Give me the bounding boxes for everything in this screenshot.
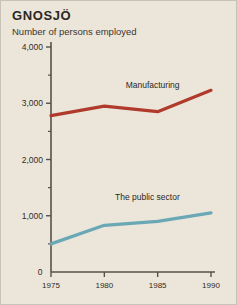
y-axis-tick-label: 4,000 [8,42,43,52]
y-axis-tick-label: 3,000 [8,98,43,108]
y-axis-tick-label: 1,000 [8,211,43,221]
x-axis-tick-label: 1980 [95,281,113,290]
chart-series-lines [51,90,211,244]
x-axis-tick-label: 1985 [149,281,167,290]
y-axis-tick-label: 2,000 [8,155,43,165]
x-axis-tick-label: 1975 [42,281,60,290]
series-label-the-public-sector: The public sector [115,192,180,202]
series-line-manufacturing [51,90,211,115]
y-axis-origin-label: 0 [38,267,43,277]
chart-card: GNOSJÖ Number of persons employed 4,0003… [0,0,237,305]
chart-axes [46,42,215,277]
series-line-the-public-sector [51,213,211,244]
x-axis-tick-label: 1990 [202,281,220,290]
series-label-manufacturing: Manufacturing [126,80,180,90]
